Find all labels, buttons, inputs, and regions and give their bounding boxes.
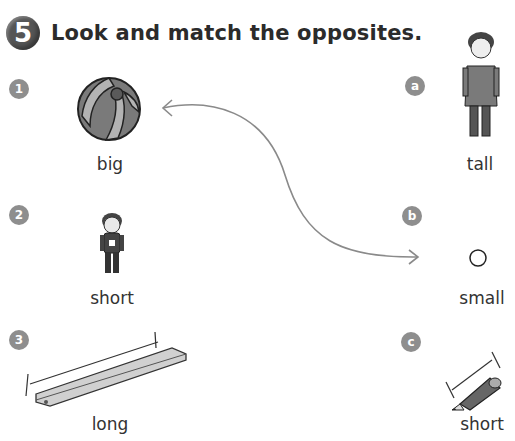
marker-2: 2 [9, 205, 29, 225]
short-boy-icon [95, 211, 129, 277]
exercise-number-badge: 5 [6, 16, 40, 50]
exercise-instruction: Look and match the opposites. [51, 21, 423, 45]
short-pencil-icon [442, 350, 508, 412]
word-big: big [60, 154, 160, 174]
word-short-pencil: short [432, 414, 515, 434]
tall-man-icon [460, 32, 502, 142]
word-short-boy: short [62, 288, 162, 308]
marker-1: 1 [9, 79, 29, 99]
marker-c: c [401, 332, 421, 352]
beach-ball-icon [76, 76, 142, 142]
word-long: long [60, 414, 160, 434]
small-ball-icon [468, 248, 488, 268]
marker-b: b [402, 206, 422, 226]
word-small: small [432, 288, 515, 308]
exercise-header: 5 Look and match the opposites. [6, 16, 423, 50]
marker-a: a [405, 76, 425, 96]
word-tall: tall [430, 154, 515, 174]
long-ruler-icon [22, 332, 192, 412]
